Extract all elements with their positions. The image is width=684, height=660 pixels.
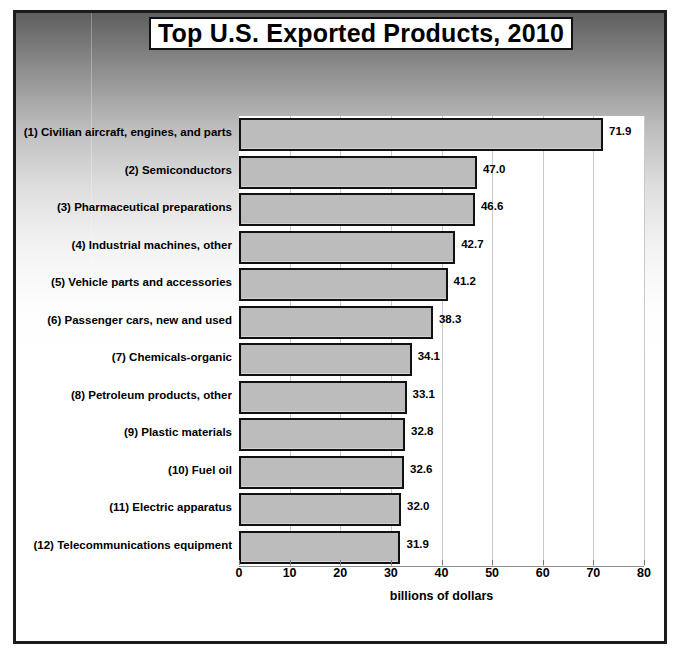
x-axis-title: billions of dollars (239, 589, 644, 603)
category-label: (8) Petroleum products, other (71, 389, 232, 401)
bar (239, 118, 603, 151)
x-tick-label: 40 (435, 566, 449, 580)
bar-rows: 71.947.046.642.741.238.334.133.132.832.6… (239, 116, 644, 566)
x-tick-mark (492, 560, 493, 565)
bar-value-label: 32.0 (407, 500, 429, 512)
category-label: (6) Passenger cars, new and used (47, 314, 232, 326)
category-label: (2) Semiconductors (125, 164, 232, 176)
category-label: (12) Telecommunications equipment (33, 539, 232, 551)
bar-value-label: 47.0 (483, 163, 505, 175)
category-label: (9) Plastic materials (124, 426, 232, 438)
x-tick-mark (340, 560, 341, 565)
bar-value-label: 34.1 (418, 350, 440, 362)
bar-value-label: 42.7 (461, 238, 483, 250)
bar-row: 47.0 (239, 154, 644, 192)
x-tick-mark (593, 560, 594, 565)
x-tick-label: 20 (333, 566, 347, 580)
plot-area: 71.947.046.642.741.238.334.133.132.832.6… (239, 116, 644, 566)
bar-row: 46.6 (239, 191, 644, 229)
bar-row: 41.2 (239, 266, 644, 304)
bar (239, 231, 455, 264)
bar-value-label: 32.8 (411, 425, 433, 437)
bar-value-label: 38.3 (439, 313, 461, 325)
x-tick-mark (644, 560, 645, 565)
x-tick-mark (239, 560, 240, 565)
chart-screenshot: Top U.S. Exported Products, 2010 (1) Civ… (0, 0, 684, 660)
bar-row: 33.1 (239, 379, 644, 417)
bar-row: 71.9 (239, 116, 644, 154)
bar-value-label: 32.6 (410, 463, 432, 475)
x-tick-label: 80 (637, 566, 651, 580)
chart-title: Top U.S. Exported Products, 2010 (158, 19, 564, 48)
x-tick-label: 70 (586, 566, 600, 580)
category-label: (5) Vehicle parts and accessories (51, 276, 232, 288)
category-label: (7) Chemicals-organic (112, 351, 232, 363)
x-tick-mark (391, 560, 392, 565)
bar (239, 531, 400, 564)
category-label: (10) Fuel oil (168, 464, 232, 476)
x-tick-label: 60 (536, 566, 550, 580)
category-label: (4) Industrial machines, other (72, 239, 232, 251)
bar (239, 193, 475, 226)
x-tick-mark (543, 560, 544, 565)
bar-value-label: 33.1 (413, 388, 435, 400)
x-tick-mark (290, 560, 291, 565)
category-label: (1) Civilian aircraft, engines, and part… (24, 126, 232, 138)
x-tick-label: 10 (283, 566, 297, 580)
x-tick-label: 0 (236, 566, 243, 580)
x-tick-label: 30 (384, 566, 398, 580)
category-labels: (1) Civilian aircraft, engines, and part… (36, 116, 232, 566)
bar-row: 32.8 (239, 416, 644, 454)
bar-value-label: 31.9 (406, 538, 428, 550)
bar (239, 418, 405, 451)
bar (239, 343, 412, 376)
category-label: (3) Pharmaceutical preparations (57, 201, 232, 213)
category-label: (11) Electric apparatus (109, 501, 232, 513)
bar-value-label: 71.9 (609, 125, 631, 137)
bar-row: 38.3 (239, 304, 644, 342)
bar-value-label: 41.2 (454, 275, 476, 287)
bar (239, 306, 433, 339)
bar (239, 456, 404, 489)
bar-row: 32.0 (239, 491, 644, 529)
bar (239, 268, 448, 301)
gridline (644, 116, 645, 566)
bar (239, 381, 407, 414)
chart-title-box: Top U.S. Exported Products, 2010 (149, 17, 573, 50)
x-tick-label: 50 (485, 566, 499, 580)
x-tick-mark (442, 560, 443, 565)
bar-row: 34.1 (239, 341, 644, 379)
bar (239, 156, 477, 189)
bar-value-label: 46.6 (481, 200, 503, 212)
bar (239, 493, 401, 526)
bar-row: 32.6 (239, 454, 644, 492)
bar-row: 42.7 (239, 229, 644, 267)
figure-frame: Top U.S. Exported Products, 2010 (1) Civ… (13, 10, 667, 644)
